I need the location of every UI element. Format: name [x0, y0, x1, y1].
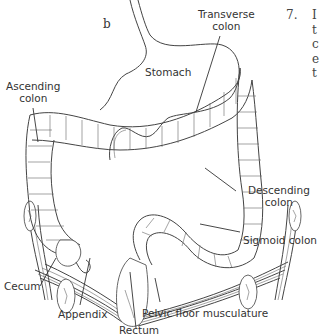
label-sigmoid-colon: Sigmoid colon [243, 234, 317, 246]
text-line: e [312, 52, 319, 67]
label-line: colon [248, 196, 310, 208]
descending-colon [237, 68, 263, 258]
label-appendix: Appendix [58, 308, 107, 320]
text-line: I [312, 8, 319, 23]
transverse-colon [30, 68, 252, 150]
label-line: Descending [248, 184, 310, 196]
label-pelvic-floor-musculature: Pelvic floor musculature [142, 307, 268, 319]
label-line: Ascending [6, 80, 60, 92]
text-line: t [312, 23, 319, 38]
sigmoid-colon [133, 215, 254, 268]
label-line: colon [6, 92, 60, 104]
text-line: c [312, 37, 319, 52]
colon-anatomy-illustration [0, 0, 322, 336]
cecum [56, 240, 90, 273]
label-cecum: Cecum [4, 280, 40, 292]
truncated-text-lines: I t c e t [312, 8, 319, 81]
label-transverse-colon: Transverse colon [198, 8, 255, 32]
label-stomach: Stomach [145, 66, 191, 78]
label-ascending-colon: Ascending colon [6, 80, 60, 104]
label-line: Transverse [198, 8, 255, 20]
label-rectum: Rectum [119, 324, 159, 336]
ascending-colon [26, 115, 80, 255]
label-line: colon [198, 20, 255, 32]
panel-letter: b [103, 17, 111, 31]
text-line: t [312, 66, 319, 81]
label-descending-colon: Descending colon [248, 184, 310, 208]
list-item-number: 7. [286, 8, 297, 23]
